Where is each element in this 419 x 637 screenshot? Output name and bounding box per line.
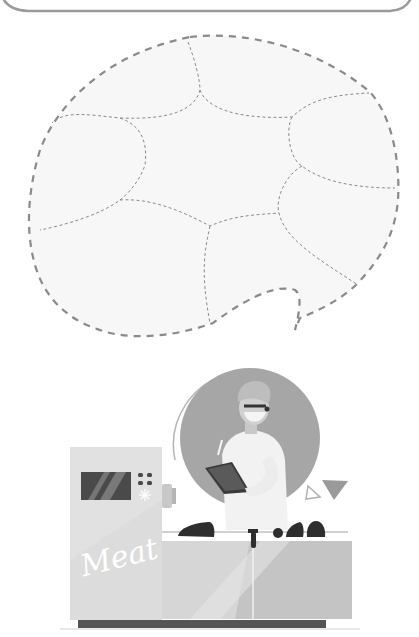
speech-bubble-outline [29,36,398,337]
illustration-technician-meat-machine: Meat [60,368,360,629]
worksheet-canvas: Meat [0,0,419,637]
triangle-filled [322,480,348,500]
triangle-outline [306,486,320,499]
speech-bubble [29,36,398,337]
machine-nozzle [162,484,172,508]
header-box-border [4,0,410,11]
machine-base [78,620,326,628]
